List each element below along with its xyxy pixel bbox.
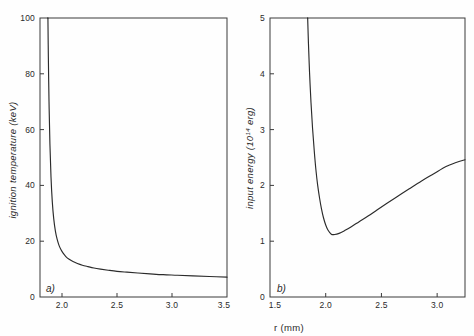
y-tick-label: 100 [20, 13, 35, 23]
data-curve [308, 18, 465, 235]
x-tick-label: 3.0 [166, 300, 178, 310]
x-tick-label: 1.5 [269, 300, 281, 310]
panel-label: a) [46, 283, 55, 294]
x-axis-title: r (mm) [274, 322, 304, 333]
x-tick-label: 3.0 [431, 300, 443, 310]
y-axis-title-group: ignition temperature (keV) [7, 101, 18, 218]
panel-label: b) [277, 283, 286, 294]
y-axis-ticks: 012345 [260, 13, 274, 302]
y-axis-title-group: input energy (1014 erg) [244, 107, 255, 209]
x-axis-ticks: 2.02.53.03.5 [56, 293, 230, 310]
y-tick-label: 20 [25, 236, 35, 246]
panel-input-energy: 012345 1.52.02.53.0 b) input energy (101… [237, 0, 474, 336]
y-axis-title: input energy (1014 erg) [244, 107, 255, 209]
y-tick-label: 4 [260, 69, 265, 79]
y-tick-label: 80 [25, 69, 35, 79]
y-tick-label: 2 [260, 180, 265, 190]
x-tick-label: 2.5 [375, 300, 387, 310]
y-axis-title-suffix: erg) [244, 107, 255, 128]
data-curve [48, 18, 227, 277]
x-tick-label: 2.0 [320, 300, 332, 310]
y-axis-title-prefix: input energy (10 [244, 135, 255, 209]
panel-b-svg: 012345 1.52.02.53.0 b) input energy (101… [237, 0, 474, 336]
panel-ignition-temperature: 020406080100 2.02.53.03.5 a) ignition te… [0, 0, 237, 336]
y-axis-title: ignition temperature (keV) [7, 101, 18, 218]
x-tick-label: 3.5 [218, 300, 230, 310]
y-tick-label: 3 [260, 125, 265, 135]
figure-container: 020406080100 2.02.53.03.5 a) ignition te… [0, 0, 474, 336]
x-tick-label: 2.5 [111, 300, 123, 310]
y-tick-label: 0 [260, 292, 265, 302]
y-tick-label: 5 [260, 13, 265, 23]
plot-frame [270, 18, 465, 297]
plot-frame [40, 18, 227, 297]
panel-a-svg: 020406080100 2.02.53.03.5 a) ignition te… [0, 0, 237, 336]
y-tick-label: 40 [25, 180, 35, 190]
y-tick-label: 60 [25, 125, 35, 135]
y-tick-label: 1 [260, 236, 265, 246]
y-tick-label: 0 [30, 292, 35, 302]
x-axis-ticks: 1.52.02.53.0 [269, 293, 444, 310]
panel-a-plot: 020406080100 2.02.53.03.5 a) [20, 13, 230, 310]
panel-b-plot: 012345 1.52.02.53.0 b) [260, 13, 465, 310]
x-tick-label: 2.0 [56, 300, 68, 310]
